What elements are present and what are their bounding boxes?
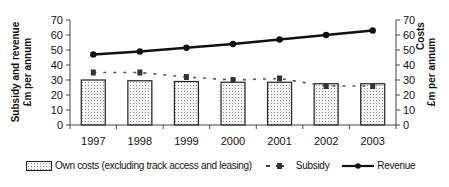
legend-item-costs: Own costs (excluding track access and le… <box>26 160 252 171</box>
svg-text:Costs: Costs <box>415 22 426 50</box>
legend-label-subsidy: Subsidy <box>296 160 329 171</box>
subsidy-marker <box>324 83 329 89</box>
right-tick-label: 70 <box>403 14 415 26</box>
svg-text:£m per annum: £m per annum <box>22 38 33 106</box>
cost-bar <box>221 82 245 125</box>
x-tick-label: 2002 <box>314 135 338 147</box>
x-tick-label: 1997 <box>81 135 105 147</box>
revenue-marker <box>370 27 376 33</box>
cost-bar <box>361 84 385 125</box>
x-tick-label: 1998 <box>128 135 152 147</box>
left-tick-label: 20 <box>51 89 63 101</box>
x-axis: 1997199819992000200120022003 <box>70 125 396 147</box>
dashed-square-marker-icon <box>264 161 288 171</box>
cost-bars <box>81 80 384 125</box>
cost-bar <box>81 80 105 125</box>
revenue-marker <box>183 45 189 51</box>
right-axis-title: Costs£m per annum <box>415 22 437 107</box>
right-tick-label: 50 <box>403 44 415 56</box>
x-tick-label: 1999 <box>174 135 198 147</box>
right-tick-label: 20 <box>403 89 415 101</box>
subsidy-marker <box>231 77 236 83</box>
cost-bar <box>128 81 152 125</box>
cost-bar <box>268 82 292 125</box>
legend-item-subsidy: Subsidy <box>264 160 329 171</box>
left-axis: 010203040506070 <box>51 14 70 131</box>
left-axis-title: Subsidy and revenue£m per annum <box>10 21 33 122</box>
right-tick-label: 60 <box>403 29 415 41</box>
right-tick-label: 10 <box>403 104 415 116</box>
chart: Subsidy and revenue£m per annum Costs£m … <box>0 0 449 160</box>
subsidy-marker <box>370 83 375 89</box>
legend-item-revenue: Revenue <box>341 160 415 171</box>
left-tick-label: 10 <box>51 104 63 116</box>
subsidy-marker <box>277 76 282 82</box>
cost-bar <box>314 84 338 125</box>
right-axis: 010203040506070 <box>396 14 415 131</box>
left-tick-label: 40 <box>51 59 63 71</box>
right-tick-label: 40 <box>403 59 415 71</box>
revenue-marker <box>230 41 236 47</box>
line-circle-marker-icon <box>341 161 375 171</box>
cost-bar <box>174 82 198 126</box>
left-tick-label: 30 <box>51 74 63 86</box>
x-tick-label: 2003 <box>360 135 384 147</box>
subsidy-marker <box>91 70 96 76</box>
left-tick-label: 70 <box>51 14 63 26</box>
left-tick-label: 50 <box>51 44 63 56</box>
subsidy-marker <box>137 70 142 76</box>
revenue-series <box>90 27 376 57</box>
svg-text:£m per annum: £m per annum <box>426 38 437 106</box>
revenue-marker <box>276 36 282 42</box>
legend-label-revenue: Revenue <box>377 160 415 171</box>
subsidy-marker <box>184 74 189 80</box>
revenue-marker <box>90 51 96 57</box>
svg-text:Subsidy and revenue: Subsidy and revenue <box>10 21 21 122</box>
legend-label-costs: Own costs (excluding track access and le… <box>55 160 252 171</box>
left-tick-label: 60 <box>51 29 63 41</box>
right-tick-label: 30 <box>403 74 415 86</box>
x-tick-label: 2001 <box>267 135 291 147</box>
dotted-bar-swatch-icon <box>26 161 52 171</box>
x-tick-label: 2000 <box>221 135 245 147</box>
revenue-marker <box>323 32 329 38</box>
right-tick-label: 0 <box>403 119 409 131</box>
revenue-marker <box>137 48 143 54</box>
left-tick-label: 0 <box>57 119 63 131</box>
legend: Own costs (excluding track access and le… <box>26 160 427 171</box>
